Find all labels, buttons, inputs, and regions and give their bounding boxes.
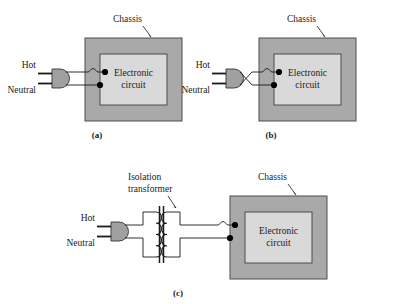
figure-canvas: Chassis Electronic circuit Hot Neutral (… <box>0 0 401 304</box>
circuit-label-line1-c: Electronic <box>259 226 298 236</box>
panel-label-b: (b) <box>266 130 277 140</box>
hot-connection-dot-b <box>276 69 282 75</box>
neutral-connection-dot-b <box>271 82 277 88</box>
hot-label-c: Hot <box>81 213 96 223</box>
hot-label-a: Hot <box>22 60 37 70</box>
hot-label-b: Hot <box>196 60 211 70</box>
plug-body-b <box>226 69 244 88</box>
hot-connection-dot-c <box>232 222 238 228</box>
neutral-label-c: Neutral <box>67 238 96 248</box>
circuit-label-line2-a: circuit <box>121 80 146 90</box>
circuit-label-line1-a: Electronic <box>114 68 153 78</box>
panel-label-c: (c) <box>173 288 183 298</box>
chassis-label-b: Chassis <box>287 14 316 24</box>
transformer-label-line1-c: Isolation <box>128 172 161 182</box>
isolation-transformer-figure: Chassis Electronic circuit Hot Neutral (… <box>0 0 401 304</box>
panel-label-a: (a) <box>92 130 103 140</box>
hot-connection-dot-a <box>102 69 108 75</box>
chassis-label-a: Chassis <box>113 14 142 24</box>
neutral-connection-dot-a <box>97 82 103 88</box>
transformer-label-line2-c: transformer <box>128 184 173 194</box>
chassis-label-c: Chassis <box>258 172 287 182</box>
circuit-label-line2-b: circuit <box>295 80 320 90</box>
circuit-label-line2-c: circuit <box>266 238 291 248</box>
neutral-connection-dot-c <box>227 235 233 241</box>
neutral-label-a: Neutral <box>8 85 37 95</box>
neutral-label-b: Neutral <box>182 85 211 95</box>
circuit-label-line1-b: Electronic <box>288 68 327 78</box>
